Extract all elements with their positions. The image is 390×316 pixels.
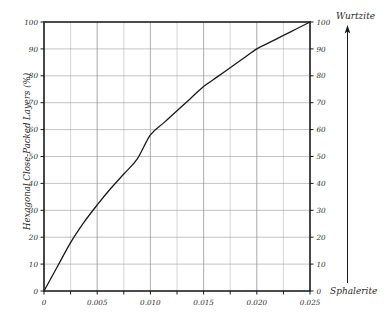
y-tick-label-right: 0: [317, 287, 322, 296]
y-tick-label-right: 50: [317, 152, 327, 161]
y-tick-label-left: 100: [24, 18, 38, 27]
y-tick-label-left: 20: [28, 233, 39, 242]
x-tick-label: 0.005: [87, 298, 108, 307]
y-tick-label-right: 20: [316, 233, 327, 242]
x-tick-label: 0.010: [140, 298, 161, 307]
x-tick-label: 0.025: [300, 298, 321, 307]
chart-figure: 0102030405060708090100 01020304050607080…: [0, 0, 390, 316]
y-tick-label-right: 40: [316, 179, 327, 188]
y-tick-label-right: 30: [317, 206, 327, 215]
y-tick-label-right: 60: [317, 125, 327, 134]
x-tick-label: 0.020: [247, 298, 268, 307]
phase-label-sphalerite: Sphalerite: [330, 286, 377, 296]
y-tick-label-right: 80: [317, 71, 327, 80]
y-tick-label-left: 90: [29, 45, 39, 54]
y-tick-label-right: 10: [317, 260, 327, 269]
y-axis-title: Hexagonal Close-Packed Layers (%): [22, 73, 32, 231]
x-tick-label: 0.015: [193, 298, 214, 307]
chart-background: [0, 0, 390, 316]
y-tick-label-right: 70: [317, 98, 327, 107]
x-tick-label: 0: [42, 298, 47, 307]
y-tick-label-left: 0: [33, 287, 38, 296]
y-tick-label-left: 10: [29, 260, 39, 269]
phase-label-wurtzite: Wurtzite: [336, 11, 375, 21]
y-tick-label-right: 100: [317, 18, 331, 27]
y-tick-label-right: 90: [317, 45, 327, 54]
